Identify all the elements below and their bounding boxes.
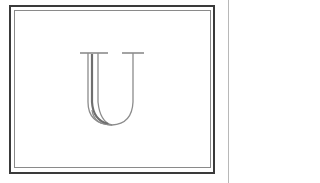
page-edge-rule xyxy=(228,0,229,183)
monogram-u-icon xyxy=(78,50,148,128)
